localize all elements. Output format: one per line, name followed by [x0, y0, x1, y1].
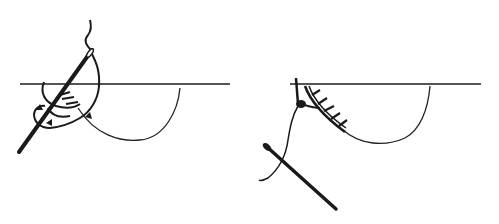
arrow-icon [46, 119, 52, 126]
figure-1 [19, 20, 230, 152]
diagram-canvas [0, 0, 499, 224]
thread-tail-1 [86, 20, 91, 50]
thread-loop-1 [78, 88, 180, 140]
needle-2 [266, 146, 336, 209]
needle-1 [19, 50, 92, 152]
edge-thread-2 [296, 78, 298, 104]
stitch-diagram: Needle inserted, thread looping around e… [0, 0, 499, 224]
figure-2 [259, 78, 481, 209]
thread-loop-2 [343, 86, 430, 143]
